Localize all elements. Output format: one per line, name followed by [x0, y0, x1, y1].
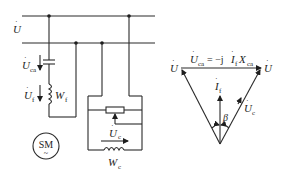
svg-text:β: β [222, 112, 228, 123]
svg-text:·: · [231, 47, 234, 56]
angle-beta-label: β [222, 112, 228, 123]
circuit-and-phasor-diagram: U · U · ca U · f W f [0, 0, 283, 181]
control-winding-coil-icon [104, 148, 124, 151]
field-winding-coil-icon [49, 84, 52, 104]
svg-text:f: f [219, 87, 222, 95]
capacitor-voltage-equation: U · ca = −j I · f X ca [190, 47, 254, 68]
svg-text:·: · [26, 83, 29, 92]
svg-text:·: · [24, 53, 27, 62]
capacitor-icon [43, 60, 55, 64]
svg-text:·: · [111, 121, 114, 130]
svg-text:W: W [108, 156, 118, 168]
phasor-diagram: U · U · U · ca = −j I · f X ca I · f β U [170, 47, 273, 144]
control-branch: U · c W c [88, 16, 142, 171]
svg-text:·: · [266, 56, 269, 65]
svg-text:ca: ca [198, 60, 205, 68]
control-winding-label: W c [108, 156, 121, 171]
svg-text:ca: ca [247, 60, 254, 68]
svg-text:f: f [235, 60, 238, 68]
svg-text:c: c [252, 109, 255, 117]
supply-bus [22, 14, 155, 45]
field-branch: U · ca U · f W f [22, 16, 76, 117]
svg-text:c: c [118, 133, 121, 141]
svg-text:·: · [192, 47, 195, 56]
svg-text:·: · [172, 56, 175, 65]
svg-text:·: · [246, 96, 249, 105]
svg-text:c: c [118, 163, 121, 171]
phasor-left-label: U · [170, 56, 179, 74]
angle-arc-right [221, 125, 229, 128]
svg-text:ca: ca [30, 66, 37, 74]
supply-voltage-phasor-right [220, 70, 260, 144]
svg-text:f: f [32, 96, 35, 104]
svg-text:W: W [55, 89, 65, 101]
angle-arc-left [212, 125, 219, 128]
svg-text:f: f [65, 96, 68, 104]
svg-text:X: X [238, 53, 247, 65]
synchronous-machine: SM ~ [33, 133, 59, 159]
control-voltage-marker [238, 98, 241, 104]
capacitor-voltage-label: U · ca [22, 53, 37, 74]
control-voltage-phasor-label: U · c [244, 96, 255, 117]
ac-symbol: ~ [44, 149, 49, 158]
rheostat-icon [106, 107, 124, 113]
svg-text:·: · [215, 74, 218, 83]
field-winding-label: W f [55, 89, 68, 104]
field-current-label: I · f [214, 74, 222, 95]
field-voltage-label: U · f [24, 83, 35, 104]
phasor-dot: · [15, 17, 18, 26]
supply-voltage-label: U · [13, 17, 22, 35]
svg-text:= −j: = −j [207, 54, 224, 65]
phasor-right-label: U · [264, 56, 273, 74]
